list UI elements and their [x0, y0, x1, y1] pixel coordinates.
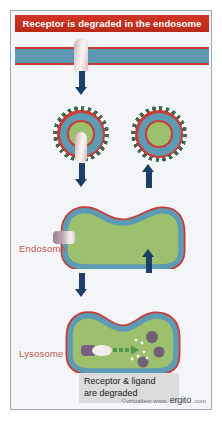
copyright-prefix: ©virtualtext www.	[122, 398, 168, 404]
coated-vesicle-empty	[131, 106, 187, 162]
vesicle-receptor-icon	[75, 132, 87, 162]
degrading-ligand-icon	[92, 345, 112, 356]
endosome-label: Endosome	[19, 243, 66, 254]
membrane-receptor-icon	[74, 39, 88, 73]
figure-title: Receptor is degraded in the endosome	[15, 15, 209, 32]
lysosome-shape	[64, 309, 182, 373]
copyright-notice: ©virtualtext www. ergito .com	[122, 395, 206, 405]
lysosome-body	[154, 347, 165, 358]
plasma-membrane	[15, 47, 209, 65]
brand-tld: .com	[193, 398, 206, 404]
membrane-core	[15, 49, 209, 62]
figure-panel: Receptor is degraded in the endosome	[10, 10, 212, 410]
arrow-endosome-to-vesicle-icon	[142, 163, 155, 188]
brand-name: ergito	[170, 395, 191, 405]
coated-vesicle-with-receptor	[53, 106, 109, 162]
membrane-inner-leaflet	[15, 63, 209, 65]
lysosome-body	[146, 331, 158, 343]
endosome-shape	[59, 203, 187, 269]
lysosome-label: Lysosome	[19, 348, 64, 359]
caption-line-1: Receptor & ligand	[84, 376, 174, 388]
